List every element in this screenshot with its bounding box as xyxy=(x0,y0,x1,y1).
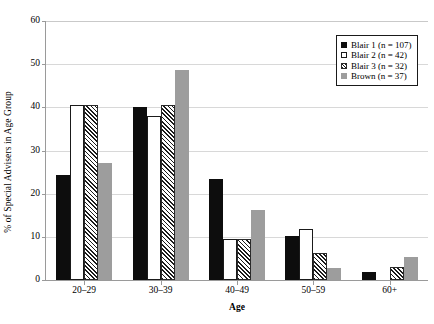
bar xyxy=(390,267,404,280)
y-axis-tick-label: 60 xyxy=(0,16,40,26)
bar xyxy=(175,70,189,280)
bar xyxy=(313,253,327,280)
y-axis-tick-label: 0 xyxy=(0,275,40,285)
legend-item: Blair 3 (n = 32) xyxy=(341,61,412,71)
bar xyxy=(147,116,161,280)
legend-swatch-blair-3 xyxy=(341,63,347,69)
y-axis-tick-label: 30 xyxy=(0,146,40,156)
legend-swatch-brown xyxy=(341,73,347,79)
bar xyxy=(327,268,341,280)
y-axis-tick-label: 50 xyxy=(0,59,40,69)
bar xyxy=(251,210,265,280)
bar xyxy=(56,175,70,280)
y-axis-tick-mark xyxy=(42,21,46,22)
legend-label-blair-2: Blair 2 (n = 42) xyxy=(351,50,407,60)
x-axis-tick-mark xyxy=(161,281,162,285)
bar xyxy=(98,163,112,280)
bar xyxy=(161,105,175,280)
legend-item: Blair 2 (n = 42) xyxy=(341,50,412,60)
y-axis-tick-mark xyxy=(42,237,46,238)
y-axis-tick-mark xyxy=(42,194,46,195)
y-axis-tick-mark xyxy=(42,64,46,65)
bar xyxy=(223,239,237,280)
legend: Blair 1 (n = 107) Blair 2 (n = 42) Blair… xyxy=(336,35,418,86)
bar xyxy=(404,257,418,280)
bar xyxy=(299,229,313,280)
bar xyxy=(133,107,147,280)
bar xyxy=(84,105,98,280)
y-axis-tick-mark xyxy=(42,107,46,108)
y-axis-tick-mark xyxy=(42,280,46,281)
y-axis-tick-label: 40 xyxy=(0,102,40,112)
legend-label-blair-3: Blair 3 (n = 32) xyxy=(351,61,407,71)
bar xyxy=(362,272,376,280)
legend-label-blair-1: Blair 1 (n = 107) xyxy=(351,40,412,50)
bar-chart: % of Special Advisers in Age Group 01020… xyxy=(0,0,434,324)
legend-swatch-blair-1 xyxy=(341,42,347,48)
bar xyxy=(209,179,223,280)
y-axis-tick-mark xyxy=(42,151,46,152)
y-axis-tick-label: 10 xyxy=(0,232,40,242)
legend-label-brown: Brown (n = 37) xyxy=(351,71,407,81)
x-axis-tick-mark xyxy=(390,281,391,285)
x-axis-title: Age xyxy=(46,303,428,313)
legend-item: Blair 1 (n = 107) xyxy=(341,40,412,50)
bar xyxy=(70,105,84,280)
y-axis-tick-label: 20 xyxy=(0,189,40,199)
legend-item: Brown (n = 37) xyxy=(341,71,412,81)
x-axis-tick-mark xyxy=(313,281,314,285)
x-axis-tick-label: 60+ xyxy=(345,286,434,296)
legend-swatch-blair-2 xyxy=(341,52,347,58)
x-axis-tick-mark xyxy=(237,281,238,285)
x-axis-tick-mark xyxy=(84,281,85,285)
bar xyxy=(285,236,299,280)
bar xyxy=(237,239,251,280)
